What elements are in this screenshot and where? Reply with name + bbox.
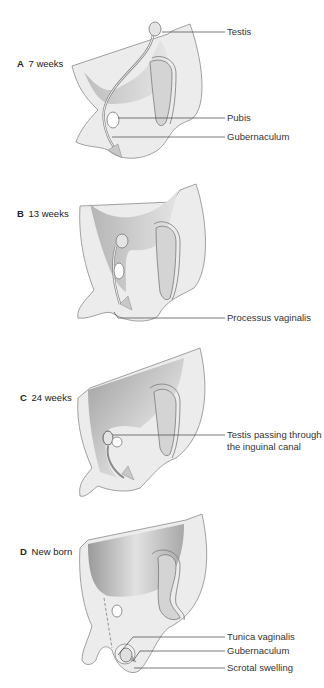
stage-label-d: D New born — [20, 546, 72, 557]
callout-gubernaculum: Gubernaculum — [227, 645, 289, 657]
stage-label-c: C 24 weeks — [20, 392, 72, 403]
callout-processus-vaginalis: Processus vaginalis — [227, 312, 311, 324]
panel-letter: B — [17, 208, 24, 219]
pubis-shape — [112, 437, 122, 447]
panel-a-illustration — [0, 0, 324, 170]
pubis-shape — [112, 605, 122, 617]
panel-c-24-weeks: C 24 weeks Testis passing through the in… — [0, 340, 324, 510]
stage-text: 24 weeks — [32, 392, 72, 403]
stage-text: 13 weeks — [29, 208, 69, 219]
testis-shape — [149, 22, 161, 36]
panel-d-new-born: D New born Tunica vaginalis Gubernaculum… — [0, 510, 324, 688]
pubis-shape — [107, 112, 119, 128]
testis-shape — [116, 234, 128, 248]
callout-tunica-vaginalis: Tunica vaginalis — [227, 631, 295, 643]
callout-pubis: Pubis — [227, 112, 251, 124]
stage-text: 7 weeks — [29, 58, 64, 69]
stage-label-a: A 7 weeks — [17, 58, 63, 69]
callout-line-1: Testis passing through — [227, 429, 322, 441]
callout-line-2: the inguinal canal — [227, 441, 322, 453]
panel-c-illustration — [0, 340, 324, 510]
callout-gubernaculum: Gubernaculum — [227, 131, 289, 143]
stage-label-b: B 13 weeks — [17, 208, 69, 219]
testis-shape — [103, 431, 113, 445]
callout-testis: Testis — [227, 26, 251, 38]
panel-letter: C — [20, 392, 27, 403]
callout-scrotal-swelling: Scrotal swelling — [227, 662, 293, 674]
callout-testis-passing: Testis passing through the inguinal cana… — [227, 429, 322, 453]
panel-letter: A — [17, 58, 24, 69]
panel-a-7-weeks: A 7 weeks Testis Pubis Gubernaculum — [0, 0, 324, 170]
panel-b-13-weeks: B 13 weeks Processus vaginalis — [0, 170, 324, 340]
pubis-shape — [114, 263, 124, 279]
stage-text: New born — [32, 546, 73, 557]
panel-letter: D — [20, 546, 27, 557]
